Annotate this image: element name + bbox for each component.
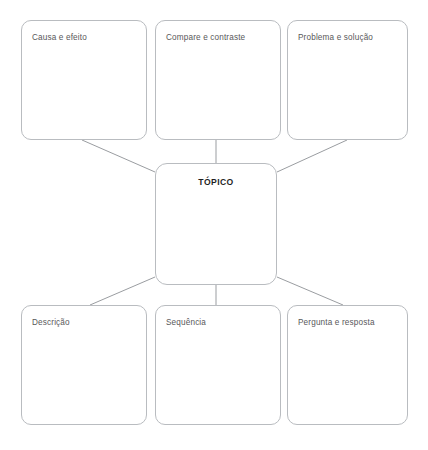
connector-topic-to-question-answer <box>277 277 343 305</box>
node-description[interactable]: Descrição <box>21 305 147 425</box>
node-cause-effect-label: Causa e efeito <box>32 32 138 43</box>
node-compare-contrast-label: Compare e contraste <box>166 32 272 43</box>
diagram-canvas: Causa e efeito Compare e contraste Probl… <box>0 0 428 450</box>
node-description-label: Descrição <box>32 317 138 328</box>
node-problem-solution-label: Problema e solução <box>298 32 399 43</box>
node-problem-solution[interactable]: Problema e solução <box>287 20 408 140</box>
node-sequence-label: Sequência <box>166 317 272 328</box>
node-compare-contrast[interactable]: Compare e contraste <box>155 20 281 140</box>
node-topic-center[interactable]: TÓPICO <box>155 163 277 285</box>
node-sequence[interactable]: Sequência <box>155 305 281 425</box>
connector-cause-effect-to-topic <box>82 140 155 172</box>
node-question-answer-label: Pergunta e resposta <box>298 317 399 328</box>
node-question-answer[interactable]: Pergunta e resposta <box>287 305 408 425</box>
connector-topic-to-description <box>90 277 155 305</box>
node-cause-effect[interactable]: Causa e efeito <box>21 20 147 140</box>
node-topic-label: TÓPICO <box>156 177 276 187</box>
connector-problem-solution-to-topic <box>277 140 347 172</box>
